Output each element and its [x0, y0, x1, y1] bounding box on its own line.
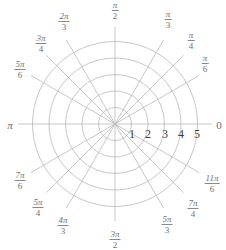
angle-label-5pi-over-6: 5π6: [14, 60, 25, 80]
ray-150deg: [31, 76, 115, 125]
angle-label-pi-over-2: π2: [112, 1, 119, 21]
ray-225deg: [46, 124, 115, 193]
ray-135deg: [46, 55, 115, 124]
radial-label-4: 4: [178, 127, 184, 142]
polar-grid-diagram: 0 π6 π4 π3 π2 2π3 3π4 5π6 π 7π6 5π4 4π3 …: [0, 0, 226, 250]
ray-120deg: [67, 40, 116, 124]
ray-300deg: [115, 124, 164, 208]
angle-label-3pi-over-2: 3π2: [109, 230, 120, 250]
angle-label-5pi-over-3: 5π3: [161, 215, 172, 235]
ray-210deg: [31, 124, 115, 173]
ray-45deg: [115, 55, 184, 124]
ray-60deg: [115, 40, 164, 124]
angle-label-4pi-over-3: 4π3: [57, 216, 68, 236]
angle-label-pi-over-4: π4: [188, 31, 195, 51]
ray-330deg: [115, 124, 199, 173]
ray-240deg: [67, 124, 116, 208]
angle-label-0: 0: [216, 119, 222, 131]
angle-label-11pi-over-6: 11π6: [205, 174, 220, 194]
angle-label-pi-over-6: π6: [202, 54, 209, 74]
radial-label-3: 3: [162, 127, 168, 142]
angle-label-7pi-over-6: 7π6: [14, 171, 25, 191]
angle-label-3pi-over-4: 3π4: [35, 34, 46, 54]
radial-label-1: 1: [129, 127, 135, 142]
radial-label-2: 2: [145, 127, 151, 142]
angle-label-7pi-over-4: 7π4: [187, 199, 198, 219]
angle-label-pi-over-3: π3: [165, 10, 172, 30]
ray-30deg: [115, 76, 199, 125]
angle-label-5pi-over-4: 5π4: [32, 198, 43, 218]
radial-label-5: 5: [194, 127, 200, 142]
angle-rays: [18, 27, 212, 221]
angle-label-pi: π: [7, 119, 13, 131]
angle-label-2pi-over-3: 2π3: [58, 12, 69, 32]
